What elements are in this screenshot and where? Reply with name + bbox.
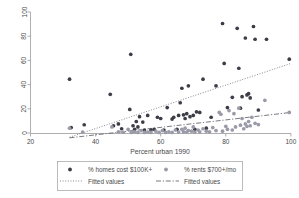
fitted-lines-layer: [70, 63, 291, 137]
data-point: [201, 77, 205, 81]
data-point: [121, 130, 125, 134]
legend: % homes cost $100K+ % rents $700+/mo Fit…: [58, 162, 243, 191]
data-point: [230, 95, 234, 99]
data-point: [263, 98, 267, 102]
data-points-layer: [68, 22, 291, 135]
data-point: [245, 124, 249, 128]
y-tick-label-20: 20: [21, 105, 28, 113]
y-tick-label-40: 40: [21, 81, 28, 89]
data-point: [198, 111, 202, 115]
data-point: [68, 77, 72, 81]
data-point: [208, 130, 212, 134]
series-1-points: [68, 22, 291, 132]
data-point: [177, 114, 181, 118]
data-point: [287, 111, 291, 115]
data-point: [257, 108, 261, 112]
data-point: [265, 37, 269, 41]
x-axis-title: Percent urban 1990: [130, 148, 190, 155]
data-point: [248, 124, 252, 128]
data-point: [156, 115, 160, 119]
data-point: [257, 123, 261, 127]
data-point: [82, 123, 86, 127]
data-point: [165, 106, 169, 110]
data-point: [149, 131, 153, 135]
data-point: [138, 115, 142, 119]
data-point: [141, 120, 145, 124]
x-tick-label-20: 20: [27, 138, 35, 145]
data-point: [182, 113, 186, 117]
data-point: [230, 128, 234, 132]
data-point: [211, 126, 215, 130]
data-point: [198, 130, 202, 134]
legend-label-fit-rents: Fitted values: [184, 178, 220, 185]
data-point: [68, 126, 72, 130]
data-point: [159, 117, 163, 121]
axes-group: [31, 12, 292, 134]
data-point: [130, 131, 134, 135]
data-point: [131, 124, 135, 128]
data-point: [178, 101, 182, 105]
data-point: [243, 36, 247, 40]
data-point: [117, 122, 121, 126]
data-point: [287, 57, 291, 61]
data-point: [242, 127, 246, 131]
legend-label-homes: % homes cost $100K+: [88, 166, 152, 173]
data-point: [234, 125, 238, 129]
data-point: [134, 120, 138, 124]
data-point: [235, 26, 239, 30]
data-point: [240, 95, 244, 99]
data-point: [209, 115, 213, 119]
data-point: [81, 130, 85, 134]
data-point: [191, 125, 195, 129]
data-point: [157, 131, 161, 135]
chart-canvas: 0 20 40 60 80 100 20 40 60 80 100 Percen…: [0, 0, 299, 198]
data-point: [126, 128, 130, 132]
x-tick-label-60: 60: [157, 138, 165, 145]
data-point: [183, 126, 187, 130]
legend-marker-homes-icon: [68, 168, 72, 172]
scatter-plot-figure: 0 20 40 60 80 100 20 40 60 80 100 Percen…: [0, 0, 299, 198]
y-tick-label-60: 60: [21, 56, 28, 64]
data-point: [247, 120, 251, 124]
data-point: [237, 66, 241, 70]
data-point: [146, 114, 150, 118]
data-point: [248, 96, 252, 100]
data-point: [239, 123, 243, 127]
data-point: [227, 109, 231, 113]
y-tick-label-0: 0: [21, 131, 28, 135]
x-tick-label-40: 40: [92, 138, 100, 145]
data-point: [185, 112, 189, 116]
data-point: [237, 106, 241, 110]
data-point: [221, 22, 225, 26]
data-point: [214, 84, 218, 88]
data-point: [183, 117, 187, 121]
data-point: [182, 130, 186, 134]
x-axis-ticks: 20 40 60 80 100: [27, 134, 297, 146]
data-point: [120, 127, 124, 131]
data-point: [226, 128, 230, 132]
x-tick-label-80: 80: [222, 138, 230, 145]
data-point: [154, 129, 158, 133]
data-point: [136, 125, 140, 129]
data-point: [195, 110, 199, 114]
x-tick-label-100: 100: [285, 138, 296, 145]
data-point: [110, 125, 114, 129]
data-point: [187, 129, 191, 133]
data-point: [139, 129, 143, 133]
data-point: [129, 53, 133, 57]
data-point: [253, 37, 257, 41]
data-point: [180, 86, 184, 90]
data-point: [191, 114, 195, 118]
data-point: [190, 129, 194, 133]
data-point: [133, 130, 137, 134]
data-point: [221, 129, 225, 133]
y-axis-ticks: 0 20 40 60 80 100: [21, 6, 31, 135]
legend-label-rents: % rents $700+/mo: [184, 166, 236, 173]
data-point: [252, 25, 256, 29]
y-tick-label-100: 100: [21, 6, 28, 17]
data-point: [193, 130, 197, 134]
data-point: [219, 112, 223, 116]
data-point: [250, 115, 254, 119]
data-point: [172, 115, 176, 119]
data-point: [247, 92, 251, 96]
